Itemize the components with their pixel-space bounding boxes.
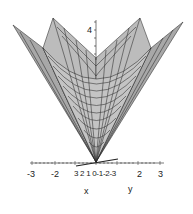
x-tick-label: -3 — [27, 170, 35, 179]
y-axis-label: y — [128, 185, 133, 194]
x-tick-label: 3 — [158, 170, 163, 179]
z-axis — [94, 20, 96, 60]
x-tick-label: -2 — [51, 170, 59, 179]
y-tick-labels: 3 2 1 0-1-2-3 — [74, 170, 116, 178]
x-tick-label: 2 — [137, 170, 142, 179]
surface-plot — [0, 0, 193, 214]
z-tick-label: 4 — [87, 26, 92, 35]
x-axis-label: x — [84, 187, 89, 196]
